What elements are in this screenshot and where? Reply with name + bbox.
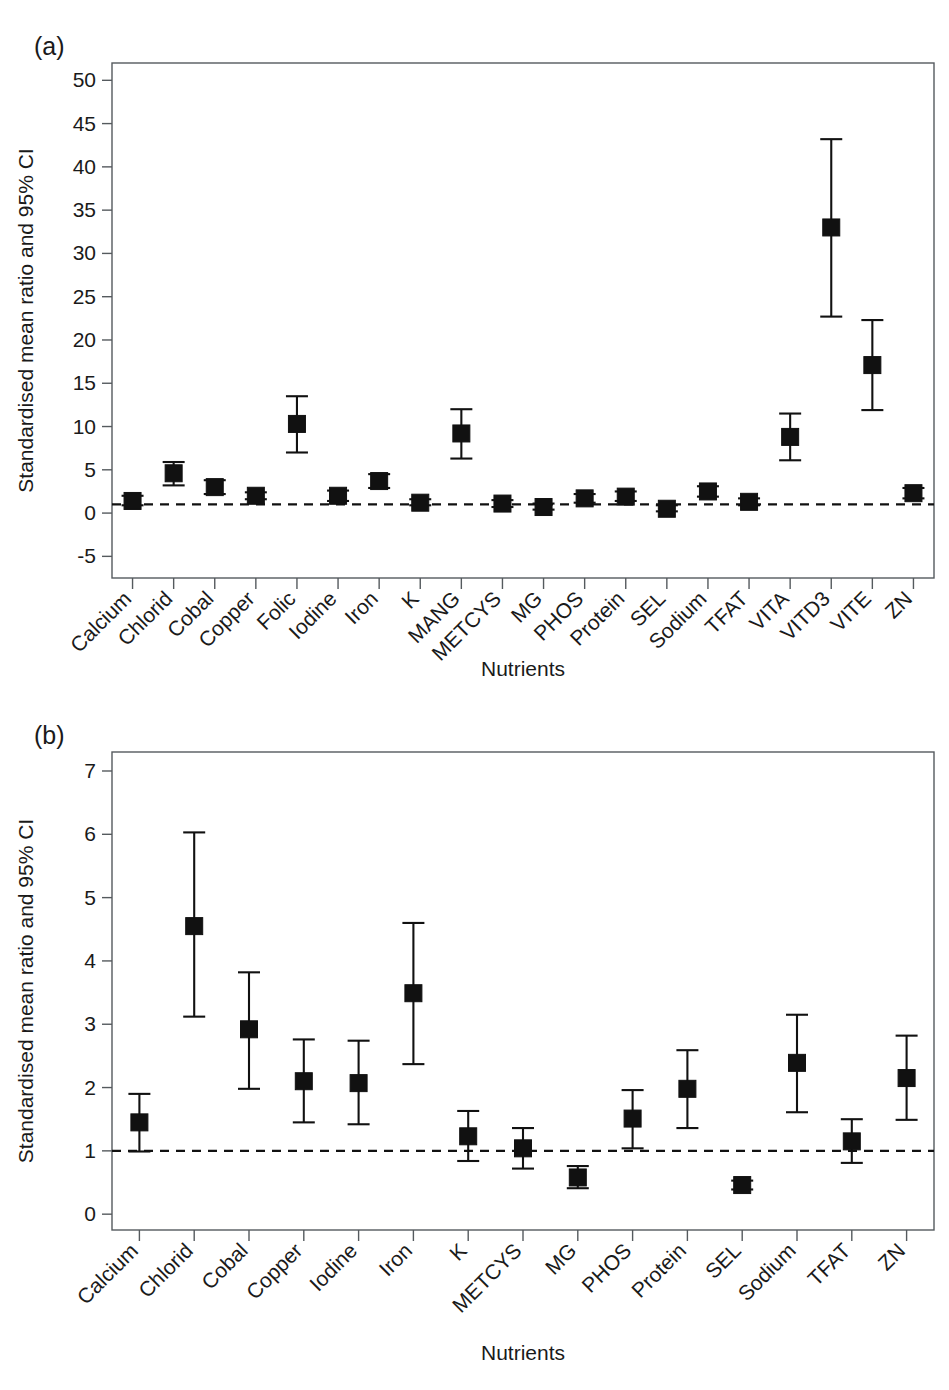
panel-tag: (b): [34, 721, 65, 749]
point-marker: [165, 465, 182, 482]
y-tick-label: 45: [73, 112, 96, 135]
panel-a: (a)-505101520253035404550CalciumChloridC…: [0, 0, 949, 700]
point-marker: [350, 1075, 367, 1092]
point-marker: [679, 1080, 696, 1097]
y-axis-title: Standardised mean ratio and 95% CI: [14, 148, 37, 492]
data-point: [238, 972, 260, 1088]
x-axis-title: Nutrients: [481, 657, 565, 680]
x-category-label: K: [445, 1239, 471, 1265]
point-marker: [789, 1054, 806, 1071]
y-tick-label: 50: [73, 68, 96, 91]
data-point: [245, 487, 267, 504]
point-marker: [898, 1070, 915, 1087]
x-category-label: MG: [540, 1239, 580, 1279]
point-marker: [864, 357, 881, 374]
data-point: [676, 1050, 698, 1128]
data-point: [122, 492, 144, 509]
data-point: [368, 473, 390, 490]
x-category-label: Iodine: [305, 1239, 362, 1296]
data-point: [656, 500, 678, 517]
panel-b-chart: (b)01234567CalciumChloridCobalCopperIodi…: [0, 700, 949, 1390]
x-category-label: Iodine: [284, 587, 341, 644]
data-point: [348, 1041, 370, 1125]
y-tick-label: 3: [84, 1012, 96, 1035]
panel-tag: (a): [34, 32, 65, 60]
point-marker: [412, 494, 429, 511]
y-tick-label: 25: [73, 285, 96, 308]
x-category-label: ZN: [873, 1239, 909, 1275]
point-marker: [905, 485, 922, 502]
point-marker: [658, 500, 675, 517]
data-point: [779, 414, 801, 461]
point-marker: [186, 918, 203, 935]
x-category-label: ZN: [880, 587, 916, 623]
y-tick-label: 0: [84, 501, 96, 524]
y-tick-label: -5: [77, 544, 96, 567]
y-tick-label: 4: [84, 949, 96, 972]
data-point: [902, 485, 924, 502]
point-marker: [576, 490, 593, 507]
point-marker: [131, 1114, 148, 1131]
data-point: [409, 494, 431, 511]
x-category-label: VITE: [826, 587, 875, 636]
data-point: [293, 1039, 315, 1122]
x-axis-title: Nutrients: [481, 1341, 565, 1364]
data-point: [731, 1177, 753, 1194]
point-marker: [405, 985, 422, 1002]
point-marker: [515, 1140, 532, 1157]
y-tick-label: 0: [84, 1202, 96, 1225]
x-category-label: Iron: [340, 587, 382, 629]
point-marker: [741, 493, 758, 510]
point-marker: [734, 1177, 751, 1194]
data-point: [491, 495, 513, 512]
x-category-label: TFAT: [700, 586, 752, 638]
point-marker: [247, 487, 264, 504]
point-marker: [288, 415, 305, 432]
point-marker: [241, 1021, 258, 1038]
point-marker: [295, 1073, 312, 1090]
data-point: [820, 139, 842, 316]
y-tick-label: 15: [73, 371, 96, 394]
point-marker: [699, 483, 716, 500]
y-tick-label: 40: [73, 155, 96, 178]
data-point: [861, 320, 883, 410]
point-marker: [843, 1133, 860, 1150]
y-tick-label: 7: [84, 759, 96, 782]
y-tick-label: 5: [84, 458, 96, 481]
data-point: [567, 1166, 589, 1188]
y-axis-title: Standardised mean ratio and 95% CI: [14, 819, 37, 1163]
data-point: [841, 1119, 863, 1163]
y-tick-label: 30: [73, 241, 96, 264]
x-category-label: PHOS: [577, 1239, 635, 1297]
data-series: [128, 832, 917, 1193]
x-category-label: Sodium: [733, 1239, 800, 1306]
plot-frame: [112, 63, 934, 578]
data-point: [896, 1036, 918, 1120]
data-point: [786, 1015, 808, 1112]
x-category-label: Iron: [374, 1239, 416, 1281]
figure-container: (a)-505101520253035404550CalciumChloridC…: [0, 0, 949, 1390]
data-point: [183, 832, 205, 1016]
point-marker: [617, 488, 634, 505]
data-point: [402, 923, 424, 1064]
data-point: [204, 479, 226, 496]
y-tick-label: 6: [84, 822, 96, 845]
y-tick-label: 35: [73, 198, 96, 221]
point-marker: [782, 428, 799, 445]
x-category-label: Protein: [627, 1239, 690, 1302]
point-marker: [535, 499, 552, 516]
data-point: [450, 409, 472, 458]
point-marker: [460, 1128, 477, 1145]
x-category-label: Calcium: [72, 1239, 142, 1309]
data-point: [128, 1094, 150, 1152]
x-category-label: Copper: [242, 1239, 307, 1304]
y-tick-label: 10: [73, 415, 96, 438]
data-point: [457, 1111, 479, 1161]
point-marker: [330, 487, 347, 504]
x-category-label: Chlorid: [134, 1239, 197, 1302]
data-point: [512, 1128, 534, 1169]
data-point: [163, 462, 185, 485]
point-marker: [371, 473, 388, 490]
y-tick-label: 20: [73, 328, 96, 351]
data-series: [122, 139, 925, 517]
